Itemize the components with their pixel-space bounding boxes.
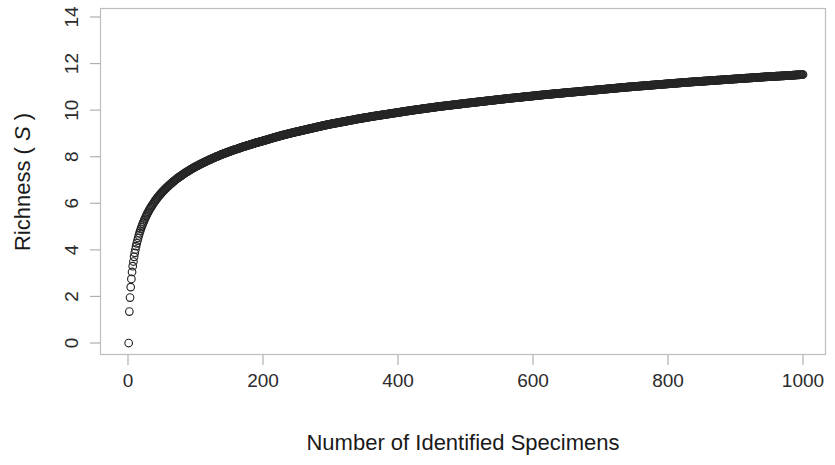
x-tick-label: 0 (123, 370, 134, 391)
x-tick-label: 1000 (782, 370, 824, 391)
y-tick-label: 12 (61, 53, 82, 74)
y-axis-title-variable: S (10, 126, 35, 141)
x-axis-title: Number of Identified Specimens (306, 430, 619, 455)
y-axis-title: Richness ( S ) (10, 113, 35, 251)
y-tick-label: 2 (61, 291, 82, 302)
y-tick-label: 4 (61, 244, 82, 255)
y-axis-ticks: 02468101214 (61, 6, 100, 348)
y-tick-label: 8 (61, 151, 82, 162)
y-tick-label: 10 (61, 100, 82, 121)
rarefaction-chart: 02004006008001000 02468101214 Number of … (0, 0, 835, 465)
x-tick-label: 400 (382, 370, 414, 391)
x-tick-label: 200 (247, 370, 279, 391)
x-tick-label: 800 (652, 370, 684, 391)
x-tick-label: 600 (517, 370, 549, 391)
plot-area-border (101, 9, 826, 355)
chart-figure: 02004006008001000 02468101214 Number of … (0, 0, 835, 465)
y-tick-label: 14 (61, 6, 82, 28)
y-axis-title-suffix: ) (10, 113, 35, 126)
y-tick-label: 6 (61, 198, 82, 209)
y-tick-label: 0 (61, 338, 82, 349)
y-axis-title-prefix: Richness ( (10, 141, 35, 251)
x-axis-ticks: 02004006008001000 (123, 355, 824, 391)
